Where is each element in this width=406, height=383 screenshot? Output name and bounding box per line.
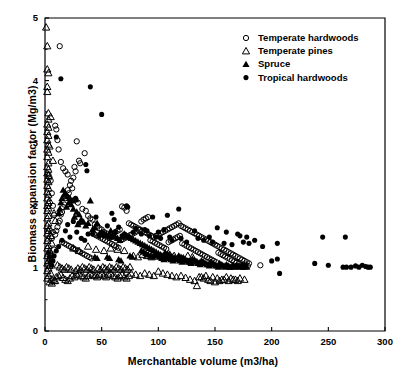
x-tick-label: 0	[31, 336, 59, 347]
y-tick-label: 5	[24, 12, 38, 23]
y-axis-title: Biomass expansion factor (Mg/m3)	[26, 34, 38, 314]
legend-markers	[242, 35, 249, 80]
plot-canvas	[0, 0, 406, 383]
x-tick-label: 150	[201, 336, 229, 347]
x-axis-title: Merchantable volume (m3/ha)	[0, 355, 406, 367]
x-tick-label: 50	[88, 336, 116, 347]
legend-marker-open-triangle	[242, 47, 249, 53]
y-tick-label: 0	[24, 325, 38, 336]
scatter-chart: 050100150200250300 012345 Temperate hard…	[0, 0, 406, 383]
x-tick-label: 200	[258, 336, 286, 347]
legend-label: Temperate hardwoods	[258, 32, 359, 43]
legend-label: Temperate pines	[258, 45, 333, 56]
legend-marker-open-circle	[243, 35, 248, 40]
axes-frame	[45, 18, 385, 331]
series-tropical-hardwoods	[46, 76, 373, 276]
axis-ticks	[45, 18, 385, 331]
x-tick-label: 100	[144, 336, 172, 347]
legend-label: Spruce	[258, 58, 290, 69]
legend-label: Tropical hardwoods	[258, 72, 348, 83]
data-points	[43, 24, 373, 289]
legend-marker-filled-circle	[243, 75, 248, 80]
legend-marker-filled-triangle	[242, 61, 249, 67]
x-tick-label: 300	[371, 336, 399, 347]
series-temperate-hardwoods	[45, 44, 263, 270]
x-tick-label: 250	[314, 336, 342, 347]
